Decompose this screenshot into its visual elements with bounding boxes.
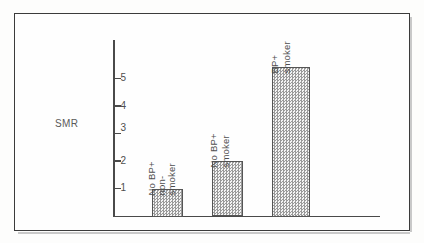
y-tick-label-1: 1 bbox=[108, 183, 126, 193]
bar-label-no-bp-smoker-line2: smoker bbox=[221, 135, 232, 167]
bar-bp-smoker bbox=[272, 67, 310, 217]
bar-label-bp-smoker-line1: BP+ bbox=[270, 55, 281, 74]
bar-label-no-bp-smoker-line1: No BP+ bbox=[209, 133, 220, 167]
y-tick-label-3: 3 bbox=[108, 123, 126, 133]
chart-page: SMR 5 4 3 2 1 No BP+ non- smoker No BP+ … bbox=[0, 0, 424, 243]
y-tick-row-2: 2 bbox=[86, 156, 126, 166]
y-tick-label-2: 2 bbox=[108, 156, 126, 166]
y-tick-row-5: 5 bbox=[86, 73, 126, 83]
bar-label-bp-smoker-line2: smoker bbox=[282, 41, 293, 73]
y-tick-row-3: 3 bbox=[86, 123, 126, 133]
y-tick-label-5: 5 bbox=[108, 73, 126, 83]
y-axis-label: SMR bbox=[55, 118, 78, 129]
y-tick-row-1: 1 bbox=[86, 183, 126, 193]
y-tick-row-4: 4 bbox=[86, 101, 126, 111]
bar-label-no-bp-non-smoker-line3: smoker bbox=[167, 163, 178, 195]
bar-no-bp-smoker bbox=[212, 161, 243, 217]
y-tick-label-4: 4 bbox=[108, 101, 126, 111]
plot-area: SMR 5 4 3 2 1 No BP+ non- smoker No BP+ … bbox=[0, 0, 424, 243]
